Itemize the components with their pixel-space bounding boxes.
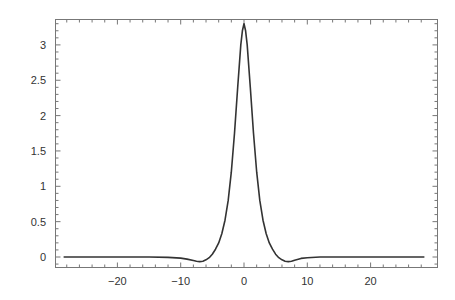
y-tick-label: 2 (40, 110, 46, 122)
y-tick-label: 0.5 (31, 216, 46, 228)
x-axis-labels: −20−1001020 (108, 275, 377, 287)
x-tick-label: 20 (364, 275, 376, 287)
x-tick-label: −10 (171, 275, 190, 287)
y-tick-label: 1 (40, 180, 46, 192)
line-chart: −20−1001020 00.511.522.53 (0, 0, 455, 300)
y-tick-label: 3 (40, 39, 46, 51)
y-axis-labels: 00.511.522.53 (31, 39, 46, 263)
x-tick-label: −20 (108, 275, 127, 287)
x-tick-label: 10 (301, 275, 313, 287)
y-tick-label: 2.5 (31, 74, 46, 86)
data-curve (64, 24, 425, 262)
y-tick-label: 1.5 (31, 145, 46, 157)
y-tick-label: 0 (40, 251, 46, 263)
x-tick-label: 0 (241, 275, 247, 287)
plot-frame (56, 20, 438, 268)
ticks-layer (56, 20, 438, 268)
